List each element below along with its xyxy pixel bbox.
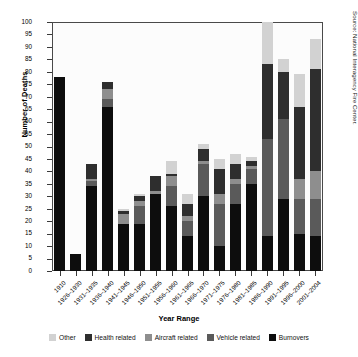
bar-segment-vehicle-related (262, 139, 273, 236)
bar-1986–1990 (262, 22, 273, 271)
bar-1946–1950 (134, 194, 145, 271)
bar-segment-health-related (198, 149, 209, 161)
bar-segment-vehicle-related (198, 164, 209, 196)
chart-root: Number of Deaths Source: National Intera… (0, 0, 358, 357)
bar-2001–2004 (310, 39, 321, 271)
x-tick-mark (108, 271, 109, 276)
bar-1951–1955 (150, 176, 161, 271)
bar-1971–1975 (214, 159, 225, 271)
bar-segment-vehicle-related (278, 119, 289, 199)
x-tick-mark (235, 271, 236, 276)
x-tick-mark (299, 271, 300, 276)
bar-1976–1980 (230, 154, 241, 271)
legend-swatch (85, 334, 92, 341)
bar-segment-burnovers (198, 196, 209, 271)
legend-swatch (145, 334, 152, 341)
bar-1961–1965 (182, 194, 193, 271)
x-tick-mark (92, 271, 93, 276)
legend-label: Other (59, 334, 76, 341)
bar-segment-vehicle-related (214, 204, 225, 246)
bar-segment-health-related (102, 82, 113, 89)
bar-segment-other (262, 22, 273, 64)
bar-segment-health-related (150, 176, 161, 191)
bar-1941–1945 (118, 209, 129, 271)
legend-item: Burnovers (269, 334, 309, 341)
bar-1956–1960 (166, 161, 177, 271)
bar-1981–1985 (246, 157, 257, 272)
bar-segment-vehicle-related (246, 169, 257, 184)
bar-segment-health-related (86, 164, 97, 179)
bar-segment-burnovers (166, 206, 177, 271)
x-tick-mark (188, 271, 189, 276)
bar-segment-burnovers (310, 236, 321, 271)
bar-segment-vehicle-related (182, 221, 193, 236)
bar-segment-burnovers (102, 107, 113, 271)
bar-segment-other (182, 194, 193, 204)
bar-segment-other (278, 59, 289, 71)
legend-item: Other (49, 334, 76, 341)
bar-segment-vehicle-related (102, 99, 113, 106)
legend-swatch (269, 334, 276, 341)
bar-segment-aircraft-related (294, 179, 305, 199)
bar-segment-vehicle-related (294, 199, 305, 234)
legend-item: Health related (85, 334, 136, 341)
bar-segment-vehicle-related (310, 199, 321, 236)
bar-segment-burnovers (86, 186, 97, 271)
x-tick-mark (60, 271, 61, 276)
bar-segment-other (310, 39, 321, 69)
x-axis-title: Year Range (0, 314, 358, 323)
bar-1996–2000 (294, 74, 305, 271)
bar-segment-vehicle-related (230, 184, 241, 204)
x-tick-mark (219, 271, 220, 276)
bar-segment-aircraft-related (118, 214, 129, 224)
x-tick-mark (76, 271, 77, 276)
bar-segment-burnovers (230, 204, 241, 271)
x-tick-mark (140, 271, 141, 276)
bar-segment-other (214, 159, 225, 169)
bar-segment-aircraft-related (166, 176, 177, 186)
legend-label: Aircraft related (155, 334, 198, 341)
bar-segment-vehicle-related (166, 186, 177, 206)
x-tick-mark (251, 271, 252, 276)
legend-swatch (207, 334, 214, 341)
bar-segment-aircraft-related (102, 89, 113, 99)
x-tick-mark (172, 271, 173, 276)
bar-segment-burnovers (118, 224, 129, 271)
legend-label: Health related (95, 334, 136, 341)
bar-segment-health-related (182, 204, 193, 216)
bar-segment-burnovers (54, 77, 65, 271)
bar-1926–1930 (70, 254, 81, 271)
bar-segment-burnovers (134, 224, 145, 271)
legend-item: Aircraft related (145, 334, 198, 341)
bar-1910 (54, 77, 65, 271)
bar-segment-burnovers (150, 194, 161, 271)
x-tick-mark (267, 271, 268, 276)
bar-segment-burnovers (182, 236, 193, 271)
bar-segment-health-related (294, 107, 305, 179)
x-tick-mark (203, 271, 204, 276)
bar-segment-health-related (262, 64, 273, 139)
chart-legend: OtherHealth relatedAircraft relatedVehic… (0, 334, 358, 341)
bar-1966–1970 (198, 144, 209, 271)
bar-segment-burnovers (262, 236, 273, 271)
bar-segment-vehicle-related (134, 206, 145, 223)
bar-segment-health-related (278, 72, 289, 119)
bar-segment-aircraft-related (310, 171, 321, 198)
bar-segment-health-related (310, 69, 321, 171)
x-tick-mark (283, 271, 284, 276)
bar-1991–1995 (278, 59, 289, 271)
bar-1936–1940 (102, 82, 113, 271)
x-tick-mark (124, 271, 125, 276)
x-tick-mark (156, 271, 157, 276)
legend-swatch (49, 334, 56, 341)
bar-segment-health-related (214, 169, 225, 194)
legend-label: Burnovers (279, 334, 309, 341)
bar-segment-other (294, 74, 305, 106)
bar-segment-burnovers (294, 234, 305, 271)
legend-label: Vehicle related (217, 334, 260, 341)
bar-segment-burnovers (278, 199, 289, 271)
bar-segment-aircraft-related (214, 194, 225, 204)
bar-segment-burnovers (70, 254, 81, 271)
bar-segment-other (166, 161, 177, 173)
bar-segment-health-related (230, 164, 241, 179)
